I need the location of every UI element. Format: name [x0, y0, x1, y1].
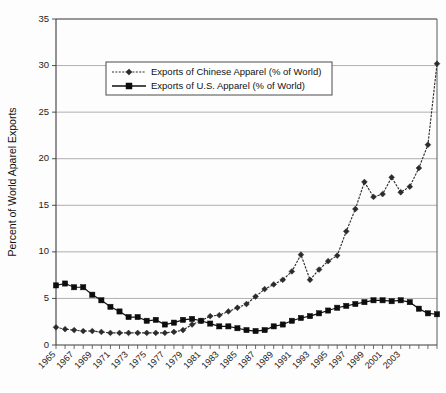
data-point-us-undefined	[425, 311, 430, 316]
data-point-us-1979	[180, 317, 185, 322]
data-point-china-1965	[53, 324, 59, 330]
y-axis-title: Percent of World Aparel Exports	[6, 107, 18, 256]
data-point-china-1980	[189, 322, 195, 328]
data-point-china-1975	[144, 330, 150, 336]
legend-label-china: Exports of Chinese Apparel (% of World)	[151, 66, 321, 77]
data-point-us-undefined	[407, 300, 412, 305]
x-tick-label-1999: 1999	[345, 349, 366, 370]
data-point-china-2002	[389, 174, 395, 180]
x-tick-label-1975: 1975	[127, 349, 148, 370]
x-tick-label-1981: 1981	[181, 349, 202, 370]
data-point-us-1999	[362, 300, 367, 305]
data-point-us-1995	[326, 308, 331, 313]
data-point-us-1996	[335, 305, 340, 310]
data-point-us-1971	[108, 304, 113, 309]
y-tick-label-10: 10	[38, 245, 49, 256]
data-point-us-1997	[344, 303, 349, 308]
data-point-us-2003	[398, 298, 403, 303]
x-tick-label-1971: 1971	[91, 349, 112, 370]
x-tick-label-1973: 1973	[109, 349, 130, 370]
data-point-us-1966	[62, 281, 67, 286]
data-point-china-1996	[334, 253, 340, 259]
data-point-china-1971	[108, 330, 114, 336]
data-point-us-1998	[353, 301, 358, 306]
data-point-china-1978	[171, 329, 177, 335]
x-tick-label-1995: 1995	[308, 349, 329, 370]
data-point-us-1980	[189, 316, 194, 321]
data-point-china-1982	[207, 313, 213, 319]
data-point-china-1992	[298, 252, 304, 258]
x-tick-label-1985: 1985	[218, 349, 239, 370]
data-point-china-1983	[216, 312, 222, 318]
apparel-exports-chart: 0510152025303519651967196919711973197519…	[0, 0, 446, 393]
data-point-china-1969	[89, 328, 95, 334]
data-point-china-2003	[398, 189, 404, 195]
data-point-us-1977	[162, 322, 167, 327]
data-point-us-1989	[271, 324, 276, 329]
chart-canvas: 0510152025303519651967196919711973197519…	[0, 0, 446, 393]
data-point-us-1972	[117, 309, 122, 314]
data-point-us-2002	[389, 299, 394, 304]
x-tick-label-1983: 1983	[199, 349, 220, 370]
data-point-us-2001	[380, 298, 385, 303]
data-point-us-1981	[199, 318, 204, 323]
x-tick-label-1965: 1965	[36, 349, 57, 370]
data-point-china-1999	[362, 179, 368, 185]
x-tick-label-1979: 1979	[163, 349, 184, 370]
data-point-china-1984	[225, 309, 231, 315]
data-point-us-1982	[208, 321, 213, 326]
data-point-china-1976	[153, 330, 159, 336]
data-point-china-1977	[162, 330, 168, 336]
x-tick-label-1993: 1993	[290, 349, 311, 370]
data-point-us-1978	[171, 320, 176, 325]
data-point-us-1986	[244, 327, 249, 332]
data-point-china-1968	[80, 328, 86, 334]
data-point-us-1969	[90, 292, 95, 297]
x-tick-label-1977: 1977	[145, 349, 166, 370]
data-point-us-1990	[280, 322, 285, 327]
y-tick-label-5: 5	[44, 292, 49, 303]
data-point-china-1985	[235, 305, 241, 311]
data-point-china-1966	[62, 326, 68, 332]
x-tick-label-2003: 2003	[381, 349, 402, 370]
data-point-us-2000	[371, 298, 376, 303]
data-point-us-1987	[253, 328, 258, 333]
x-tick-label-1967: 1967	[54, 349, 75, 370]
data-point-us-1993	[307, 314, 312, 319]
data-point-china-1970	[98, 329, 104, 335]
data-point-us-1973	[126, 314, 131, 319]
data-point-us-1968	[81, 285, 86, 290]
data-point-us-1967	[72, 285, 77, 290]
y-tick-label-25: 25	[38, 106, 49, 117]
y-tick-label-35: 35	[38, 13, 49, 24]
legend-marker-us	[126, 83, 132, 89]
x-tick-label-1991: 1991	[272, 349, 293, 370]
data-point-us-1991	[289, 318, 294, 323]
x-tick-label-1989: 1989	[254, 349, 275, 370]
data-point-china-undefined	[425, 142, 431, 148]
data-point-china-1973	[126, 330, 132, 336]
data-point-us-undefined	[416, 306, 421, 311]
data-point-china-1979	[180, 327, 186, 333]
data-point-china-1998	[352, 206, 358, 212]
series-line-china	[56, 64, 437, 333]
data-point-us-1965	[53, 283, 58, 288]
x-tick-label-1987: 1987	[236, 349, 257, 370]
data-point-us-1984	[226, 324, 231, 329]
data-point-china-1989	[271, 282, 277, 288]
data-point-us-1970	[99, 298, 104, 303]
data-point-us-1974	[135, 314, 140, 319]
data-point-china-undefined	[416, 165, 422, 171]
data-point-china-1972	[117, 330, 123, 336]
data-point-us-1983	[217, 324, 222, 329]
data-point-china-1967	[71, 327, 77, 333]
y-tick-label-30: 30	[38, 59, 49, 70]
data-point-us-1994	[316, 311, 321, 316]
data-point-china-1993	[307, 277, 313, 283]
y-tick-label-20: 20	[38, 152, 49, 163]
data-point-us-undefined	[434, 312, 439, 317]
data-point-china-1974	[135, 330, 141, 336]
data-point-china-2000	[371, 194, 377, 200]
x-tick-label-2001: 2001	[363, 349, 384, 370]
y-tick-label-0: 0	[44, 339, 49, 350]
